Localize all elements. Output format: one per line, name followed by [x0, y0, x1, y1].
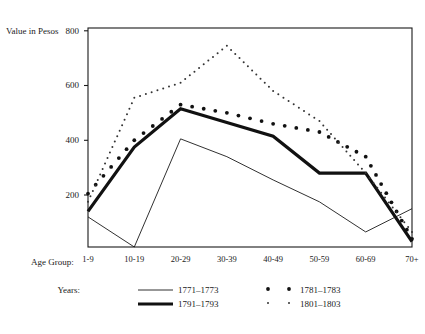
data-point	[234, 53, 236, 55]
data-point	[89, 195, 91, 197]
data-point	[106, 157, 108, 159]
data-point	[226, 45, 228, 47]
data-point	[203, 63, 205, 65]
data-point	[125, 147, 129, 151]
x-tick-label-60-69: 60-69	[356, 254, 376, 264]
x-tick-label-10-19: 10-19	[124, 254, 144, 264]
data-point	[193, 71, 195, 73]
data-point	[326, 129, 328, 131]
data-point	[405, 228, 409, 232]
data-point	[237, 114, 241, 118]
data-point	[94, 184, 96, 186]
data-point	[353, 159, 355, 161]
y-tick-label-200: 200	[66, 190, 80, 200]
legend-label-1791-1793: 1791–1793	[178, 299, 219, 309]
data-point	[207, 60, 209, 62]
data-point	[410, 237, 414, 241]
data-point	[282, 97, 284, 99]
data-point	[306, 128, 310, 132]
data-point	[184, 78, 186, 80]
data-point	[119, 130, 121, 132]
data-point	[411, 231, 413, 233]
data-point	[132, 138, 136, 142]
data-point	[327, 135, 331, 139]
data-point	[238, 57, 240, 59]
data-point	[364, 155, 368, 159]
y-tick-label-400: 400	[66, 135, 80, 145]
data-point	[399, 216, 401, 218]
x-tick-label-20-29: 20-29	[171, 254, 191, 264]
data-point	[114, 141, 116, 143]
data-point	[131, 102, 133, 104]
data-point	[264, 82, 266, 84]
x-tick-label-1-9: 1-9	[82, 254, 93, 264]
data-point	[145, 93, 147, 95]
line-chart-figure: Value in Pesos 800 600 400 200 Age Group…	[0, 0, 425, 334]
data-point	[271, 122, 275, 126]
legend-label-1801-1803: 1801–1803	[300, 299, 341, 309]
data-point	[109, 165, 113, 169]
data-point	[392, 206, 394, 208]
data-point	[99, 173, 101, 175]
data-point	[345, 150, 347, 152]
data-point	[380, 192, 382, 194]
data-point	[376, 187, 378, 189]
data-point	[365, 172, 367, 174]
data-point	[248, 116, 252, 120]
data-point	[86, 192, 90, 196]
data-point	[212, 56, 214, 58]
data-point	[168, 86, 170, 88]
data-point	[133, 97, 135, 99]
figure-background	[0, 0, 425, 334]
data-point	[243, 61, 245, 63]
legend-swatch-small-dot-a	[267, 302, 269, 304]
legend-label-1781-1783: 1781–1783	[300, 285, 341, 295]
data-point	[384, 197, 386, 199]
data-point	[294, 126, 298, 130]
data-point	[116, 135, 118, 137]
data-point	[330, 133, 332, 135]
legend-title: Years:	[57, 285, 80, 295]
data-point	[361, 168, 363, 170]
data-point	[230, 49, 232, 51]
data-point	[313, 117, 315, 119]
data-point	[97, 179, 99, 181]
data-point	[369, 177, 371, 179]
data-point	[298, 107, 300, 109]
data-point	[213, 109, 217, 113]
data-point	[160, 117, 164, 121]
data-point	[217, 52, 219, 54]
data-point	[338, 142, 340, 144]
data-point	[247, 65, 249, 67]
data-point	[396, 211, 398, 213]
data-point	[190, 105, 194, 109]
data-point	[92, 190, 94, 192]
data-point	[342, 146, 344, 148]
data-point	[202, 107, 206, 111]
data-point	[260, 78, 262, 80]
data-point	[303, 110, 305, 112]
data-point	[388, 202, 390, 204]
data-point	[322, 124, 324, 126]
data-point	[126, 113, 128, 115]
data-point	[318, 120, 320, 122]
data-point	[104, 163, 106, 165]
data-point	[277, 93, 279, 95]
data-point	[142, 131, 146, 135]
data-point	[117, 156, 121, 160]
legend-label-1771-1773: 1771–1773	[178, 285, 219, 295]
data-point	[318, 130, 322, 134]
data-point	[156, 89, 158, 91]
data-point	[221, 48, 223, 50]
data-point	[355, 150, 359, 154]
data-point	[174, 84, 176, 86]
data-point	[169, 110, 173, 114]
data-point	[102, 168, 104, 170]
data-point	[260, 119, 264, 123]
data-point	[87, 201, 89, 203]
data-point	[272, 90, 274, 92]
y-tick-label-600: 600	[66, 80, 80, 90]
data-point	[121, 124, 123, 126]
legend-swatch-small-dot-b	[288, 302, 290, 304]
x-tick-label-30-39: 30-39	[217, 254, 237, 264]
